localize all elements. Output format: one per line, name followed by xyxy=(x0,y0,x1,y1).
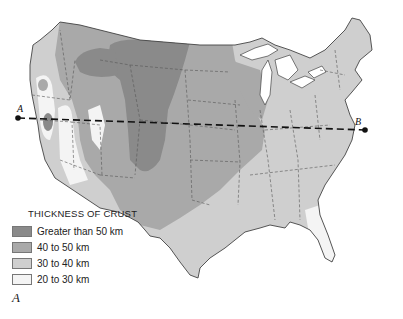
legend-item-20-30: 20 to 30 km xyxy=(12,271,137,287)
legend-title: THICKNESS OF CRUST xyxy=(28,208,137,219)
legend-item-over-50: Greater than 50 km xyxy=(12,223,137,239)
legend: THICKNESS OF CRUST Greater than 50 km 40… xyxy=(12,208,137,287)
point-a-label: A xyxy=(17,103,23,114)
swatch-40-50 xyxy=(12,242,32,253)
legend-label: 20 to 30 km xyxy=(37,274,89,285)
point-b-label: B xyxy=(355,116,361,127)
figure-label: A xyxy=(12,290,20,306)
point-b-marker xyxy=(362,127,368,133)
legend-label: Greater than 50 km xyxy=(37,226,123,237)
swatch-20-30 xyxy=(12,274,32,285)
legend-label: 30 to 40 km xyxy=(37,258,89,269)
legend-label: 40 to 50 km xyxy=(37,242,89,253)
swatch-30-40 xyxy=(12,258,32,269)
swatch-over-50 xyxy=(12,226,32,237)
legend-item-30-40: 30 to 40 km xyxy=(12,255,137,271)
point-a-marker xyxy=(15,115,21,121)
legend-item-40-50: 40 to 50 km xyxy=(12,239,137,255)
